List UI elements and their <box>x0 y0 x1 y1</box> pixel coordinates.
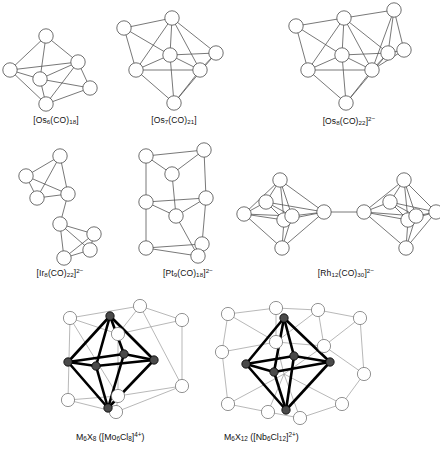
cluster-m6x8 <box>62 300 190 426</box>
caption-m6x12: M6X12 ([Nb6Cl12]2+) <box>224 432 299 442</box>
os7-graph <box>112 8 234 114</box>
pt9-graph <box>136 144 232 264</box>
rh12-graph <box>238 172 438 262</box>
ir8-vertices <box>19 149 101 265</box>
os6-edges <box>10 36 90 104</box>
rh12-vertices <box>237 173 440 255</box>
m6x12-graph <box>214 300 374 428</box>
cluster-pt9 <box>136 144 232 264</box>
caption-pt9: [Pt9(CO)18]2− <box>130 268 246 278</box>
caption-rh12: [Rh12(CO)30]2− <box>288 268 404 278</box>
os6-vertices <box>3 29 97 111</box>
cluster-os8 <box>282 4 414 114</box>
caption-os8: [Os8(CO)22]2− <box>286 116 412 126</box>
m6x8-metal-core <box>68 316 154 408</box>
caption-m6x8: M6X8 ([Mo6Cl8]4+) <box>76 432 145 442</box>
cluster-rh12 <box>238 172 438 262</box>
os8-graph <box>282 4 414 114</box>
cluster-ir8 <box>8 146 104 266</box>
cropped-caption-line <box>0 450 440 460</box>
caption-os7: [Os7(CO)21] <box>118 116 230 125</box>
pt9-vertices <box>139 143 213 263</box>
cluster-os6 <box>2 22 110 114</box>
rh12-right-octahedron <box>364 180 436 248</box>
m6x8-graph <box>62 300 190 426</box>
ir8-graph <box>8 146 104 266</box>
cluster-m6x12 <box>214 300 374 428</box>
figure-sheet: [Os6(CO)18] <box>0 0 440 460</box>
ir8-edges <box>26 156 94 258</box>
cluster-os7 <box>112 8 234 114</box>
caption-os6: [Os6(CO)18] <box>0 116 112 125</box>
os6-graph <box>2 22 110 114</box>
caption-ir8: [Ir8(CO)22]2− <box>4 268 116 278</box>
os7-vertices <box>117 11 223 110</box>
